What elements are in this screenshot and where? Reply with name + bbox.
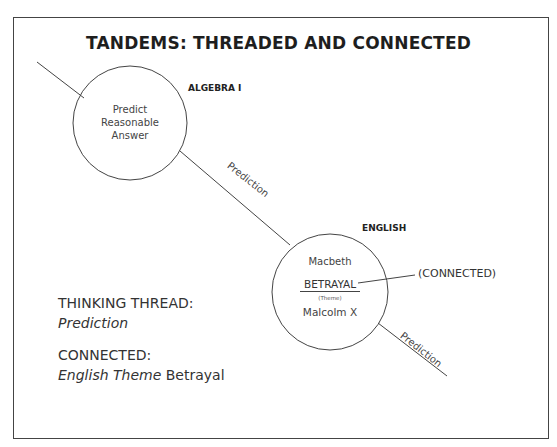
thread-value: Prediction [58, 313, 225, 333]
legend: THINKING THREAD: Prediction CONNECTED: E… [58, 293, 225, 385]
algebra-content: Predict Reasonable Answer [90, 103, 170, 142]
english-bottom-text: Malcolm X [290, 306, 370, 319]
algebra-content-line: Reasonable [90, 116, 170, 129]
thread-heading: THINKING THREAD: [58, 293, 225, 313]
connected-heading: CONNECTED: [58, 345, 225, 365]
connected-label: (CONNECTED) [418, 267, 496, 280]
theme-label: (Theme) [290, 294, 370, 302]
english-theme: BETRAYAL [280, 278, 380, 291]
connected-value: English Theme Betrayal [58, 365, 225, 385]
english-subject-label: ENGLISH [362, 223, 406, 233]
diagram-title: TANDEMS: THREADED AND CONNECTED [0, 33, 557, 53]
algebra-content-line: Predict [90, 103, 170, 116]
connected-value-plain: Betrayal [166, 367, 225, 383]
english-top-text: Macbeth [290, 255, 370, 268]
algebra-subject-label: ALGEBRA I [188, 83, 241, 93]
thread-line-in [37, 62, 84, 98]
english-circle [272, 234, 388, 350]
connected-value-italic: English Theme [58, 367, 161, 383]
algebra-content-line: Answer [90, 129, 170, 142]
theme-word: BETRAYAL [300, 278, 360, 292]
